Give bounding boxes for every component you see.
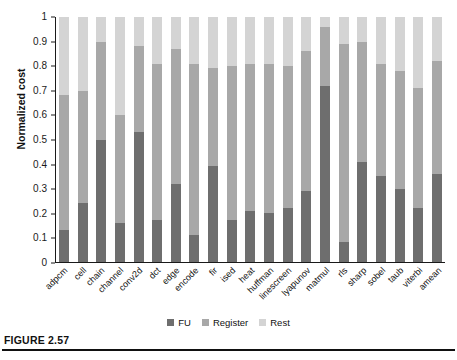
bar-huffman (264, 17, 274, 262)
legend-swatch-icon (202, 319, 209, 326)
x-axis-label-slot: sobel (376, 263, 386, 323)
bar-segment-register (171, 49, 181, 184)
y-axis-tick-label: 0.3 (33, 184, 47, 194)
bar-segment-fu (152, 220, 162, 262)
bar-segment-fu (59, 230, 69, 262)
legend-label: Rest (270, 318, 290, 328)
bar-segment-register (134, 46, 144, 132)
x-axis-label-slot: adpcm (58, 263, 68, 323)
x-axis-tick-label: adpcm (44, 266, 69, 291)
chart-legend: FURegisterRest (0, 318, 457, 328)
bar-amean (432, 17, 442, 262)
x-axis-label-slot: sharp (357, 263, 367, 323)
bar-segment-fu (264, 213, 274, 262)
x-axis-label-slot: encode (189, 263, 199, 323)
bar-taub (395, 17, 405, 262)
bar-segment-rest (357, 17, 367, 42)
bar-segment-register (96, 42, 106, 140)
x-axis-tick-label: sharp (346, 266, 368, 288)
bar-encode (189, 17, 199, 262)
bar-segment-rest (339, 17, 349, 44)
x-axis-tick-label: fir (207, 266, 219, 278)
bar-segment-rest (227, 17, 237, 66)
y-axis-tick-label: 0.2 (33, 209, 47, 219)
y-axis-tick-label: 0.7 (33, 86, 47, 96)
bar-sobel (376, 17, 386, 262)
bar-segment-register (301, 51, 311, 191)
x-axis-label-slot: taub (394, 263, 404, 323)
x-axis-label-slot: rls (338, 263, 348, 323)
bar-segment-fu (320, 86, 330, 262)
y-axis-tick-label: 0.8 (33, 61, 47, 71)
bar-segment-fu (208, 166, 218, 262)
bar-segment-rest (115, 17, 125, 115)
x-axis-label-slot: cell (77, 263, 87, 323)
bar-segment-rest (432, 17, 442, 61)
bar-segment-rest (301, 17, 311, 51)
bar-linescreen (283, 17, 293, 262)
figure-caption: FIGURE 2.57 (0, 334, 457, 346)
bar-segment-fu (301, 191, 311, 262)
bar-segment-register (376, 64, 386, 177)
bars-layer (56, 17, 445, 262)
y-axis-tick-label: 0.1 (33, 233, 47, 243)
bar-dct (152, 17, 162, 262)
bar-segment-fu (357, 162, 367, 262)
legend-item-fu: FU (167, 318, 191, 328)
legend-swatch-icon (259, 319, 266, 326)
bar-segment-fu (413, 208, 423, 262)
bar-segment-register (78, 91, 88, 204)
bar-segment-rest (320, 17, 330, 27)
bar-segment-register (227, 66, 237, 220)
legend-item-rest: Rest (259, 318, 290, 328)
bar-ised (227, 17, 237, 262)
y-axis-title: Normalized cost (15, 44, 27, 174)
bar-segment-register (413, 88, 423, 208)
bar-segment-register (152, 64, 162, 221)
x-axis-label-slot: fir (208, 263, 218, 323)
bar-sharp (357, 17, 367, 262)
bar-conv2d (134, 17, 144, 262)
y-axis-tick-label: 1 (41, 12, 47, 22)
x-axis-tick-label: sobel (365, 266, 387, 288)
bar-chain (96, 17, 106, 262)
y-axis: Normalized cost 00.10.20.30.40.50.60.70.… (0, 17, 55, 263)
bar-segment-rest (283, 17, 293, 66)
bar-segment-fu (134, 132, 144, 262)
bar-segment-fu (115, 223, 125, 262)
x-axis-label-slot: dct (151, 263, 161, 323)
bar-segment-fu (245, 211, 255, 262)
bar-adpcm (59, 17, 69, 262)
bar-segment-rest (264, 17, 274, 64)
bar-segment-register (283, 66, 293, 208)
bar-segment-fu (432, 174, 442, 262)
bar-segment-register (115, 115, 125, 223)
bar-segment-register (189, 64, 199, 236)
caption-divider (2, 349, 455, 351)
bar-segment-fu (339, 242, 349, 262)
x-axis-label-slot: ised (226, 263, 236, 323)
bar-segment-rest (395, 17, 405, 71)
x-axis-label-slot: matmul (320, 263, 330, 323)
y-axis-tick-label: 0.5 (33, 135, 47, 145)
bar-segment-register (208, 68, 218, 166)
bar-segment-rest (78, 17, 88, 91)
bar-segment-fu (96, 140, 106, 263)
bar-segment-rest (245, 17, 255, 64)
legend-swatch-icon (167, 319, 174, 326)
plot-area (55, 17, 445, 263)
y-axis-tick-label: 0.6 (33, 110, 47, 120)
bar-segment-register (357, 42, 367, 162)
bar-segment-fu (171, 184, 181, 262)
bar-segment-register (59, 95, 69, 230)
bar-segment-rest (208, 17, 218, 68)
bar-segment-rest (59, 17, 69, 95)
bar-segment-rest (189, 17, 199, 64)
figure-caption-block: FIGURE 2.57 (0, 334, 457, 351)
figure-container: Normalized cost 00.10.20.30.40.50.60.70.… (0, 0, 457, 360)
bar-cell (78, 17, 88, 262)
legend-label: Register (213, 318, 248, 328)
bar-segment-register (264, 64, 274, 213)
bar-segment-fu (78, 203, 88, 262)
bar-segment-rest (171, 17, 181, 49)
